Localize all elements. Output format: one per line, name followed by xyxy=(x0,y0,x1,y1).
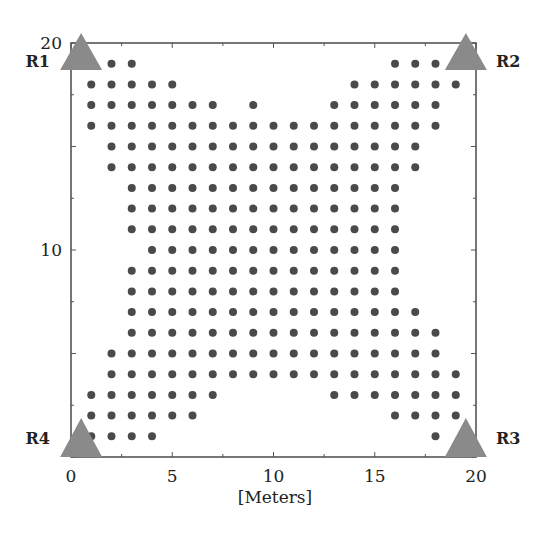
grid-point xyxy=(391,205,399,213)
grid-point xyxy=(128,412,136,420)
grid-point xyxy=(411,143,419,151)
grid-point xyxy=(351,163,359,171)
grid-point xyxy=(270,225,278,233)
grid-point xyxy=(249,370,257,378)
grid-point xyxy=(371,80,379,88)
grid-point xyxy=(87,391,95,399)
grid-point xyxy=(330,329,338,337)
grid-point xyxy=(391,391,399,399)
grid-point xyxy=(351,205,359,213)
grid-point xyxy=(371,391,379,399)
grid-point xyxy=(168,329,176,337)
grid-point xyxy=(310,350,318,358)
grid-point xyxy=(249,329,257,337)
grid-point xyxy=(432,350,440,358)
grid-point xyxy=(128,267,136,275)
grid-point xyxy=(108,370,116,378)
grid-point xyxy=(290,267,298,275)
grid-point xyxy=(270,184,278,192)
grid-point xyxy=(128,80,136,88)
grid-point xyxy=(249,205,257,213)
grid-point xyxy=(371,225,379,233)
receiver-label: R2 xyxy=(496,52,520,71)
grid-point xyxy=(209,163,217,171)
grid-point xyxy=(108,101,116,109)
grid-point xyxy=(330,225,338,233)
grid-point xyxy=(189,391,197,399)
grid-point xyxy=(290,370,298,378)
grid-point xyxy=(189,163,197,171)
grid-point xyxy=(391,122,399,130)
grid-point xyxy=(310,308,318,316)
grid-point xyxy=(189,350,197,358)
grid-point xyxy=(168,225,176,233)
grid-point xyxy=(310,370,318,378)
grid-point xyxy=(148,122,156,130)
grid-point xyxy=(330,287,338,295)
grid-point xyxy=(391,287,399,295)
grid-point xyxy=(189,225,197,233)
grid-point xyxy=(391,246,399,254)
grid-point xyxy=(411,412,419,420)
grid-point xyxy=(229,246,237,254)
grid-point xyxy=(209,205,217,213)
grid-point xyxy=(330,350,338,358)
grid-point xyxy=(290,350,298,358)
grid-point xyxy=(108,412,116,420)
grid-point xyxy=(290,225,298,233)
grid-point xyxy=(290,308,298,316)
x-tick-label: 15 xyxy=(364,466,386,486)
grid-point xyxy=(310,267,318,275)
grid-point xyxy=(148,391,156,399)
grid-point xyxy=(148,205,156,213)
grid-point xyxy=(371,122,379,130)
grid-point xyxy=(168,412,176,420)
grid-point xyxy=(310,163,318,171)
grid-point xyxy=(270,122,278,130)
grid-point xyxy=(148,267,156,275)
grid-point xyxy=(330,184,338,192)
grid-point xyxy=(108,350,116,358)
grid-point xyxy=(270,267,278,275)
grid-point xyxy=(229,184,237,192)
grid-point xyxy=(189,122,197,130)
grid-point xyxy=(371,329,379,337)
grid-point xyxy=(330,143,338,151)
grid-point xyxy=(189,184,197,192)
grid-point xyxy=(351,370,359,378)
grid-point xyxy=(351,267,359,275)
grid-point xyxy=(330,370,338,378)
grid-point xyxy=(371,350,379,358)
grid-point xyxy=(452,80,460,88)
grid-point xyxy=(411,122,419,130)
grid-point xyxy=(108,391,116,399)
grid-point xyxy=(330,391,338,399)
grid-point xyxy=(128,205,136,213)
grid-point xyxy=(371,163,379,171)
grid-point xyxy=(310,246,318,254)
grid-point xyxy=(452,370,460,378)
grid-point xyxy=(168,350,176,358)
grid-point xyxy=(371,370,379,378)
grid-point xyxy=(391,60,399,68)
grid-point xyxy=(209,143,217,151)
grid-point xyxy=(189,101,197,109)
grid-point xyxy=(411,101,419,109)
grid-point xyxy=(148,432,156,440)
grid-point xyxy=(209,308,217,316)
grid-point xyxy=(249,246,257,254)
grid-point xyxy=(249,308,257,316)
x-tick-label: 10 xyxy=(263,466,285,486)
grid-point xyxy=(148,350,156,358)
y-tick-label: 10 xyxy=(40,240,62,260)
grid-point xyxy=(148,163,156,171)
grid-point xyxy=(128,308,136,316)
grid-point xyxy=(249,163,257,171)
grid-point xyxy=(270,163,278,171)
grid-point xyxy=(148,370,156,378)
grid-point xyxy=(391,80,399,88)
grid-point xyxy=(249,143,257,151)
grid-point xyxy=(371,246,379,254)
grid-point xyxy=(270,205,278,213)
grid-point xyxy=(452,412,460,420)
